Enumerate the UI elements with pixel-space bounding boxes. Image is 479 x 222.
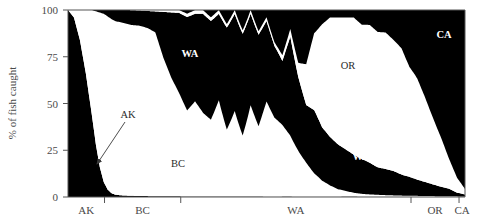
y-tick-label: 25	[47, 144, 59, 156]
band-label-ca: CA	[436, 29, 452, 40]
x-tick-label-or: OR	[427, 204, 443, 216]
fish-catch-area-chart: 0255075100 AKBCWAORCA AKBCWAORWACA % of …	[0, 0, 479, 222]
x-tick-label-ca: CA	[454, 204, 469, 216]
y-tick-label: 50	[47, 98, 59, 110]
plot-area	[68, 10, 465, 197]
annotation-label-ak: AK	[120, 109, 136, 120]
y-ticks-group: 0255075100	[42, 4, 69, 203]
series-group	[68, 10, 465, 197]
band-label-or: OR	[341, 60, 356, 71]
y-axis-title: % of fish caught	[6, 67, 18, 139]
band-label-bc: BC	[171, 158, 185, 169]
band-label-wa: WA	[182, 48, 199, 59]
x-tick-label-ak: AK	[78, 204, 94, 216]
band-label-wa: WA	[353, 151, 370, 162]
y-tick-label: 100	[42, 4, 59, 16]
y-tick-label: 0	[53, 191, 59, 203]
y-tick-label: 75	[47, 51, 59, 63]
x-tick-label-bc: BC	[135, 204, 150, 216]
x-tick-label-wa: WA	[287, 204, 304, 216]
x-ticks-group: AKBCWAORCA	[78, 197, 469, 216]
chart-canvas: 0255075100 AKBCWAORCA AKBCWAORWACA % of …	[0, 0, 479, 222]
